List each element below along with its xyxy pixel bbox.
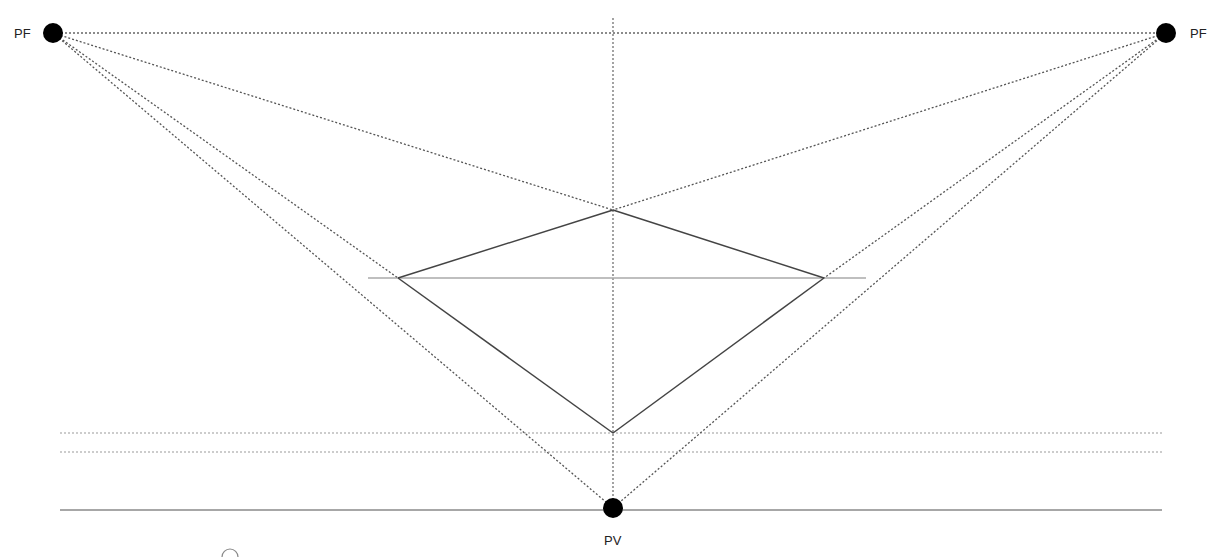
viewpoint: [603, 498, 623, 518]
vanishing-point-right: [1156, 23, 1176, 43]
vanishing-point-left: [43, 23, 63, 43]
label-pf-right: PF: [1190, 26, 1207, 41]
label-pf-left: PF: [14, 26, 31, 41]
perspective-diagram: PF PF PV: [0, 0, 1216, 557]
label-pv: PV: [604, 533, 622, 548]
